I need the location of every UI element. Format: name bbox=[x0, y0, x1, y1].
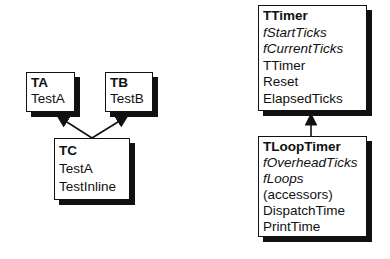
method: PrintTime bbox=[263, 219, 362, 235]
class-box-ta: TA TestA bbox=[26, 72, 75, 112]
class-name: TB bbox=[110, 75, 148, 91]
class-box-tc: TC TestA TestInline bbox=[54, 138, 130, 200]
field: fCurrentTicks bbox=[263, 41, 362, 58]
method: (accessors) bbox=[263, 187, 362, 203]
arrow-tc-to-ta bbox=[59, 117, 92, 138]
method: Reset bbox=[263, 74, 362, 91]
method: TestB bbox=[110, 91, 148, 107]
method: ElapsedTicks bbox=[263, 91, 362, 108]
field: fStartTicks bbox=[263, 25, 362, 42]
class-box-tb: TB TestB bbox=[105, 72, 153, 112]
method: TestA bbox=[31, 91, 70, 107]
class-box-ttimer: TTimer fStartTicks fCurrentTicks TTimer … bbox=[258, 5, 367, 111]
class-name: TTimer bbox=[263, 8, 362, 25]
field: fLoops bbox=[263, 171, 362, 187]
arrow-tc-to-tb bbox=[92, 117, 126, 138]
method: DispatchTime bbox=[263, 203, 362, 219]
class-box-tlooptimer: TLoopTimer fOverheadTicks fLoops (access… bbox=[258, 136, 367, 237]
class-name: TA bbox=[31, 75, 70, 91]
method: TestA bbox=[59, 160, 125, 178]
class-name: TC bbox=[59, 142, 125, 160]
field: fOverheadTicks bbox=[263, 155, 362, 171]
method: TestInline bbox=[59, 178, 125, 196]
class-name: TLoopTimer bbox=[263, 139, 362, 155]
method: TTimer bbox=[263, 58, 362, 75]
